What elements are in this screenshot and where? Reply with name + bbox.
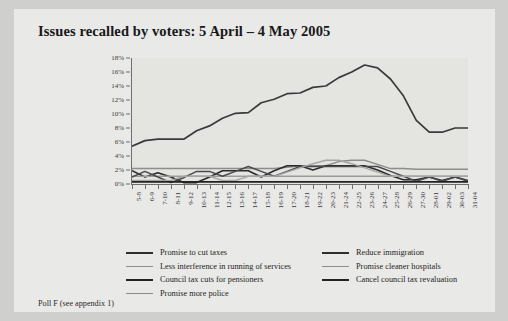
x-axis-tick-label: 10-13 <box>200 192 208 208</box>
series-line <box>132 65 468 146</box>
y-axis-tick-label: 12% <box>111 96 124 104</box>
y-axis-tick-label: 14% <box>111 82 124 90</box>
x-axis-tick <box>171 185 172 189</box>
y-axis-tick <box>126 170 130 171</box>
x-axis-tick-label: 30-03 <box>458 192 466 208</box>
x-axis-tick <box>287 185 288 189</box>
legend-item-label: Less interference in running of services <box>160 262 291 271</box>
y-axis-tick <box>126 114 130 115</box>
x-axis-tick-label: 27-30 <box>419 192 427 208</box>
x-axis-tick <box>300 185 301 189</box>
y-axis-tick <box>126 156 130 157</box>
x-axis-tick <box>145 185 146 189</box>
y-axis-tick-label: 8% <box>115 124 124 132</box>
legend-line-swatch <box>322 252 349 254</box>
x-axis-tick <box>365 185 366 189</box>
y-axis-tick <box>126 72 130 73</box>
series-line <box>132 160 468 180</box>
y-axis-tick-label: 0% <box>115 180 124 188</box>
x-axis-tick-label: 19-22 <box>316 192 324 208</box>
x-axis-tick <box>390 185 391 189</box>
x-axis-tick <box>197 185 198 189</box>
x-axis-tick-label: 14-17 <box>251 192 259 208</box>
x-axis-tick-label: 5-8 <box>135 192 143 201</box>
x-axis-tick-label: 17-20 <box>290 192 298 208</box>
x-axis-tick <box>158 185 159 189</box>
x-axis-tick <box>326 185 327 189</box>
x-axis-tick-label: 22-25 <box>355 192 363 208</box>
legend-item-label: Promise more police <box>160 289 229 298</box>
legend-item: Cancel council tax revaluation <box>322 273 492 287</box>
y-axis-tick <box>126 100 130 101</box>
x-axis-tick-label: 12-15 <box>225 192 233 208</box>
legend-item-label: Council tax cuts for pensioners <box>160 275 263 284</box>
legend-item: Less interference in running of services <box>126 260 326 274</box>
x-axis-tick-label: 18-21 <box>303 192 311 208</box>
x-axis-tick <box>274 185 275 189</box>
plot-area <box>132 58 468 184</box>
y-axis-tick-label: 16% <box>111 68 124 76</box>
x-axis-tick <box>403 185 404 189</box>
x-axis-tick-label: 25-28 <box>393 192 401 208</box>
x-axis-tick-label: 13-16 <box>238 192 246 208</box>
legend-line-swatch <box>126 293 153 294</box>
x-axis-tick-label: 23-26 <box>368 192 376 208</box>
legend-line-swatch <box>126 279 153 281</box>
y-axis-tick <box>126 128 130 129</box>
x-axis-tick <box>184 185 185 189</box>
x-axis-tick <box>210 185 211 189</box>
x-axis-tick-label: 29-02 <box>445 192 453 208</box>
legend-item-label: Reduce immigration <box>356 248 424 257</box>
legend-column-left: Promise to cut taxesLess interference in… <box>126 246 326 300</box>
x-axis-tick <box>416 185 417 189</box>
x-axis-tick <box>339 185 340 189</box>
x-axis-tick-label: 24-27 <box>381 192 389 208</box>
x-axis-tick-label: 6-9 <box>148 192 156 201</box>
legend-line-swatch <box>126 266 153 267</box>
x-axis-tick <box>222 185 223 189</box>
y-axis-tick-label: 18% <box>111 54 124 62</box>
x-axis-tick-label: 7-10 <box>161 192 169 205</box>
x-axis-tick <box>313 185 314 189</box>
x-axis-tick-label: 11-14 <box>213 192 221 208</box>
legend-item-label: Cancel council tax revaluation <box>356 275 457 284</box>
x-axis-tick-label: 16-19 <box>277 192 285 208</box>
legend-item-label: Promise cleaner hospitals <box>356 262 441 271</box>
line-chart: 0%2%4%6%8%10%12%14%16%18% 5-86-97-108-11… <box>100 53 488 201</box>
y-axis-tick-label: 4% <box>115 152 124 160</box>
x-axis-tick-label: 26-29 <box>406 192 414 208</box>
x-axis-tick-label: 9-12 <box>187 192 195 205</box>
x-axis-tick <box>352 185 353 189</box>
x-axis-tick <box>261 185 262 189</box>
x-axis-tick <box>429 185 430 189</box>
legend-item: Reduce immigration <box>322 246 492 260</box>
legend-line-swatch <box>322 266 349 267</box>
x-axis-tick-label: 20-23 <box>329 192 337 208</box>
y-axis-tick <box>126 58 130 59</box>
legend-item: Promise more police <box>126 287 326 301</box>
figure-card: Issues recalled by voters: 5 April – 4 M… <box>14 9 495 312</box>
x-axis-tick <box>248 185 249 189</box>
legend-line-swatch <box>322 279 349 281</box>
y-axis-tick <box>126 142 130 143</box>
x-axis-tick <box>442 185 443 189</box>
y-axis-tick-label: 6% <box>115 138 124 146</box>
y-axis-tick <box>126 184 130 185</box>
legend-line-swatch <box>126 252 153 254</box>
x-axis-tick-label: 8-11 <box>174 192 182 205</box>
page-background: Issues recalled by voters: 5 April – 4 M… <box>0 0 508 321</box>
x-axis-tick <box>132 185 133 189</box>
x-axis-tick-label: 31-04 <box>471 192 479 208</box>
x-axis-tick <box>378 185 379 189</box>
legend-column-right: Reduce immigrationPromise cleaner hospit… <box>322 246 492 287</box>
legend-item: Promise to cut taxes <box>126 246 326 260</box>
series-lines <box>132 58 468 184</box>
y-axis-labels: 0%2%4%6%8%10%12%14%16%18% <box>100 53 130 189</box>
x-axis-tick-label: 15-18 <box>264 192 272 208</box>
x-axis-tick <box>455 185 456 189</box>
legend-item-label: Promise to cut taxes <box>160 248 227 257</box>
x-axis-tick <box>235 185 236 189</box>
x-axis-tick-label: 21-24 <box>342 192 350 208</box>
legend-item: Council tax cuts for pensioners <box>126 273 326 287</box>
y-axis-tick-label: 2% <box>115 166 124 174</box>
